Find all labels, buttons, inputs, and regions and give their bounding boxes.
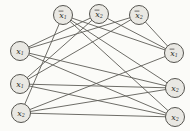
- graph-edge-b3-c1: [21, 53, 174, 113]
- graph-node-a3: x2: [130, 6, 149, 25]
- graph-edge-a1-c2: [63, 15, 175, 88]
- graph-node-b1: x1: [11, 42, 30, 61]
- graph-node-c3: x2: [166, 108, 185, 127]
- graph-node-a1: x1: [54, 6, 73, 25]
- graph-node-b3: x2: [12, 104, 31, 123]
- sat-clique-graph: x1x2x2x1x1x2x1x2x2: [0, 0, 190, 131]
- graph-edge-b2-c2: [20, 84, 175, 88]
- graph-edge-b1-c3: [20, 51, 175, 117]
- graph-edge-b3-c2: [21, 88, 175, 113]
- graph-node-a2: x2: [90, 5, 109, 24]
- graph-edge-b1-c2: [20, 51, 175, 88]
- figure-canvas: x1x2x2x1x1x2x1x2x2: [0, 0, 190, 131]
- graph-node-b2: x1: [11, 75, 30, 94]
- graph-node-c2: x2: [166, 79, 185, 98]
- graph-edge-b3-c3: [21, 113, 175, 117]
- graph-edge-a2-b2: [20, 14, 99, 84]
- graph-edge-a1-c3: [63, 15, 175, 117]
- graph-node-c1: x1: [165, 44, 184, 63]
- graph-edge-a1-c1: [63, 15, 174, 53]
